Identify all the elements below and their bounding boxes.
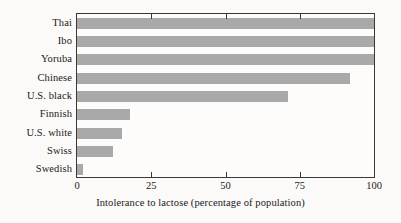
x-tick-top	[226, 14, 227, 19]
bar	[77, 36, 374, 47]
bar	[77, 54, 374, 65]
category-label: Swiss	[0, 145, 72, 156]
x-tick-label: 75	[280, 180, 320, 192]
x-tick-bottom	[151, 172, 152, 177]
x-tick-bottom	[226, 172, 227, 177]
category-label: U.S. white	[0, 127, 72, 138]
category-label: Chinese	[0, 72, 72, 83]
category-label: Swedish	[0, 163, 72, 174]
category-label: Thai	[0, 17, 72, 28]
bar	[77, 91, 288, 102]
category-label: U.S. black	[0, 90, 72, 101]
x-tick-label: 25	[131, 180, 171, 192]
x-axis-title: Intolerance to lactose (percentage of po…	[0, 197, 401, 208]
lactose-intolerance-bar-chart: ThaiIboYorubaChineseU.S. blackFinnishU.S…	[0, 0, 401, 223]
bar	[77, 164, 83, 175]
x-tick-top	[300, 14, 301, 19]
bar	[77, 109, 130, 120]
x-tick-label: 100	[354, 180, 394, 192]
x-axis-tick-labels: 0255075100	[0, 180, 401, 194]
bar	[77, 73, 350, 84]
x-tick-top	[151, 14, 152, 19]
bar	[77, 18, 374, 29]
category-label: Yoruba	[0, 53, 72, 64]
x-tick-label: 0	[57, 180, 97, 192]
bar-series	[77, 14, 374, 177]
category-axis-labels: ThaiIboYorubaChineseU.S. blackFinnishU.S…	[0, 13, 72, 178]
bar	[77, 146, 113, 157]
bar	[77, 128, 122, 139]
plot-area	[76, 13, 375, 178]
x-tick-bottom	[300, 172, 301, 177]
category-label: Finnish	[0, 108, 72, 119]
x-tick-label: 50	[206, 180, 246, 192]
category-label: Ibo	[0, 35, 72, 46]
